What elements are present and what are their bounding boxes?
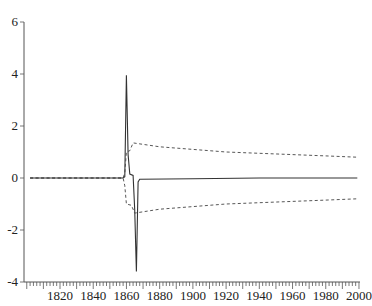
y-tick-label: 0 — [12, 170, 19, 185]
y-tick-label: 4 — [12, 66, 19, 81]
x-tick-label: 1880 — [147, 288, 173, 303]
response-line — [30, 75, 357, 271]
confidence-band-line — [30, 143, 357, 178]
x-tick-label: 2000 — [346, 288, 372, 303]
y-axis-ticks: -4-20246 — [7, 14, 24, 289]
y-tick-label: 6 — [12, 14, 19, 29]
x-tick-label: 1840 — [80, 288, 106, 303]
y-tick-label: 2 — [12, 118, 19, 133]
plot-area — [30, 75, 357, 271]
y-tick-label: -2 — [7, 222, 18, 237]
x-tick-label: 1860 — [113, 288, 139, 303]
x-tick-label: 1820 — [47, 288, 73, 303]
x-tick-label: 1920 — [213, 288, 239, 303]
x-tick-label: 1960 — [280, 288, 306, 303]
x-tick-label: 1900 — [180, 288, 206, 303]
x-tick-label: 1980 — [313, 288, 339, 303]
x-tick-label: 1940 — [246, 288, 272, 303]
y-tick-label: -4 — [7, 274, 18, 289]
confidence-band-line — [30, 178, 357, 213]
x-axis-ticks: 1820184018601880190019201940196019802000 — [27, 282, 372, 303]
line-chart: -4-20246 1820184018601880190019201940196… — [0, 0, 372, 306]
